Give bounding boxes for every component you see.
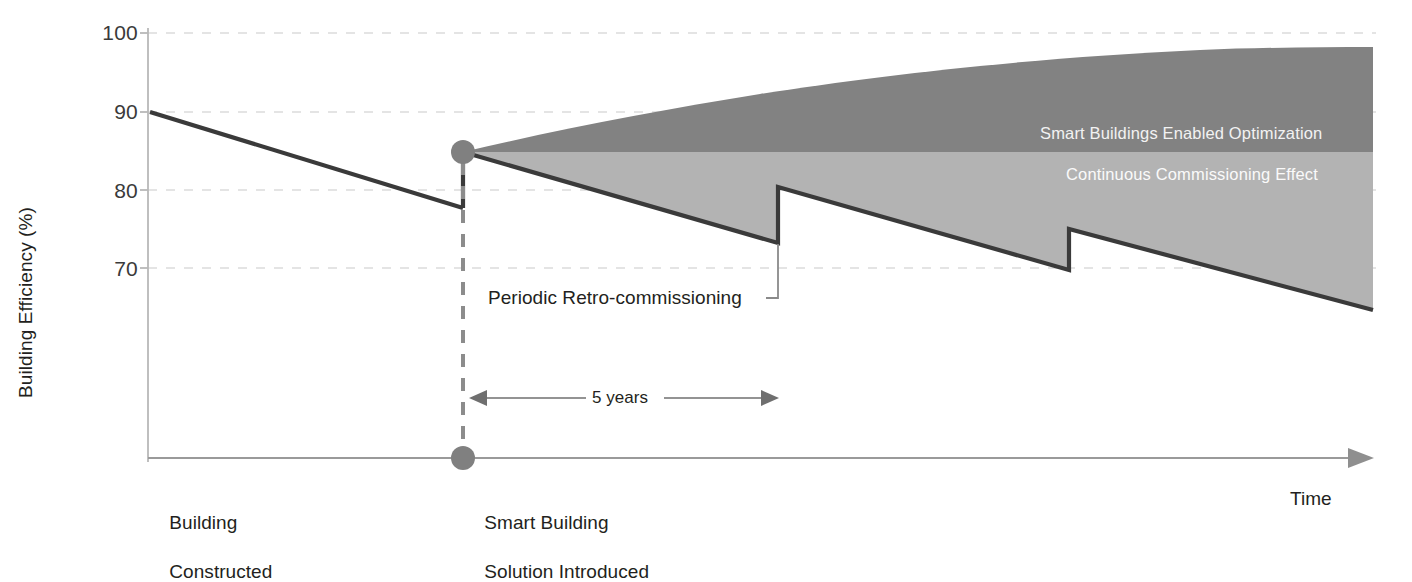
y-axis-title: Building Efficiency (%)	[14, 0, 44, 398]
annotation-periodic-retro-commissioning: Periodic Retro-commissioning	[488, 286, 742, 310]
y-tick-label-70: 70	[78, 256, 138, 283]
x-event-label-building-constructed-line1: Building	[169, 512, 237, 533]
interval-arrowhead-right	[761, 390, 779, 406]
x-event-label-smart-building-solution-line1: Smart Building	[484, 512, 608, 533]
x-event-label-smart-building-solution-line2: Solution Introduced	[484, 561, 649, 582]
interval-arrowhead-left	[469, 390, 487, 406]
band-label-continuous-commissioning: Continuous Commissioning Effect	[1066, 164, 1318, 185]
x-axis-title: Time	[1290, 487, 1332, 511]
retro-commissioning-leader-line	[766, 244, 778, 298]
annotation-interval-5-years: 5 years	[592, 387, 648, 409]
series-baseline-degradation	[150, 112, 463, 208]
band-label-smart-buildings-optimization: Smart Buildings Enabled Optimization	[1040, 123, 1322, 144]
y-tick-label-80: 80	[78, 178, 138, 205]
x-event-label-building-constructed: Building Constructed	[148, 487, 272, 582]
x-axis-arrowhead	[1348, 448, 1374, 468]
y-tick-label-100: 100	[78, 20, 138, 47]
intervention-marker-top	[451, 140, 475, 164]
intervention-marker-axis	[451, 446, 475, 470]
x-event-label-smart-building-solution: Smart Building Solution Introduced	[463, 487, 649, 582]
y-axis-ticks	[140, 33, 148, 268]
x-event-label-building-constructed-line2: Constructed	[169, 561, 272, 582]
y-tick-label-90: 90	[78, 99, 138, 126]
